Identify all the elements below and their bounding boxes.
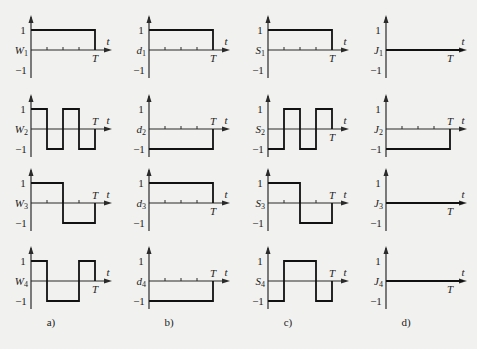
series-label: W1 (15, 44, 28, 58)
plus-one-label: 1 (138, 255, 144, 267)
y-axis-arrow-icon (266, 246, 271, 254)
plus-one-label: 1 (20, 255, 26, 267)
y-axis-arrow-icon (384, 168, 389, 176)
plot-J4: J4 (374, 246, 467, 309)
period-label: T (329, 52, 336, 64)
y-axis-arrow-icon (147, 168, 152, 176)
plus-one-label: 1 (138, 177, 144, 189)
x-axis-arrow-icon (459, 127, 467, 132)
minus-one-label: −1 (133, 64, 145, 76)
series-label: d4 (137, 275, 147, 289)
period-label: T (92, 52, 99, 64)
minus-one-label: −1 (370, 295, 382, 307)
plot-S1: S1 (256, 15, 350, 78)
minus-one-label: −1 (133, 217, 145, 229)
time-axis-label: t (106, 266, 110, 278)
y-axis-arrow-icon (266, 15, 271, 23)
plot-W4: W4 (15, 246, 112, 309)
plus-one-label: 1 (257, 177, 263, 189)
plot-W1: W1 (15, 15, 112, 78)
x-axis-arrow-icon (222, 48, 230, 53)
minus-one-label: −1 (133, 295, 145, 307)
period-label: T (329, 267, 336, 279)
series-label: S3 (256, 197, 266, 211)
x-axis-arrow-icon (104, 201, 112, 206)
series-label: d1 (137, 44, 147, 58)
series-label: W3 (15, 197, 28, 211)
waveform (149, 281, 213, 301)
plus-one-label: 1 (257, 103, 263, 115)
plus-one-label: 1 (375, 103, 381, 115)
period-label: T (447, 115, 454, 127)
minus-one-label: −1 (15, 143, 27, 155)
caption-b: b) (164, 316, 174, 329)
plus-one-label: 1 (375, 177, 381, 189)
series-label: S1 (256, 44, 266, 58)
x-axis-arrow-icon (341, 201, 349, 206)
series-label: S2 (256, 123, 266, 137)
waveform-figure: W1W2W3W41−1tT1−1tT1−1tT1−1tTa)d1d2d3d41−… (0, 0, 477, 349)
time-axis-label: t (224, 266, 228, 278)
minus-one-label: −1 (133, 143, 145, 155)
series-label: W4 (15, 275, 28, 289)
caption-c: c) (284, 316, 293, 329)
y-axis-arrow-icon (266, 168, 271, 176)
plus-one-label: 1 (138, 24, 144, 36)
time-axis-label: t (224, 188, 228, 200)
x-axis-arrow-icon (222, 279, 230, 284)
time-axis-label: t (106, 35, 110, 47)
minus-one-label: −1 (252, 295, 264, 307)
time-axis-label: t (106, 188, 110, 200)
x-axis-arrow-icon (341, 279, 349, 284)
plus-one-label: 1 (20, 177, 26, 189)
time-axis-label: t (461, 266, 465, 278)
time-axis-label: t (224, 114, 228, 126)
period-label: T (210, 267, 217, 279)
minus-one-label: −1 (370, 64, 382, 76)
period-label: T (447, 205, 454, 217)
time-axis-label: t (461, 35, 465, 47)
period-label: T (92, 189, 99, 201)
series-label: W2 (15, 123, 28, 137)
series-label: J2 (374, 123, 383, 137)
x-axis-arrow-icon (104, 48, 112, 53)
x-axis-arrow-icon (341, 127, 349, 132)
time-axis-label: t (343, 35, 347, 47)
minus-one-label: −1 (370, 143, 382, 155)
time-axis-label: t (461, 188, 465, 200)
series-label: J4 (374, 275, 383, 289)
period-label: T (447, 52, 454, 64)
caption-d: d) (401, 316, 411, 329)
time-axis-label: t (343, 266, 347, 278)
time-axis-label: t (343, 188, 347, 200)
plot-d3: d3 (137, 168, 231, 231)
time-axis-label: t (343, 114, 347, 126)
time-axis-label: t (461, 114, 465, 126)
period-label: T (329, 131, 336, 143)
x-axis-arrow-icon (222, 201, 230, 206)
series-label: J1 (374, 44, 383, 58)
panel-d: J1J2J3J4 (374, 15, 467, 309)
series-label: d3 (137, 197, 147, 211)
y-axis-arrow-icon (29, 168, 34, 176)
period-label: T (447, 283, 454, 295)
plus-one-label: 1 (375, 24, 381, 36)
minus-one-label: −1 (15, 64, 27, 76)
minus-one-label: −1 (252, 217, 264, 229)
y-axis-arrow-icon (29, 246, 34, 254)
plot-S2: S2 (256, 94, 350, 157)
x-axis-arrow-icon (341, 48, 349, 53)
period-label: T (92, 115, 99, 127)
series-label: S4 (256, 275, 266, 289)
y-axis-arrow-icon (29, 15, 34, 23)
y-axis-arrow-icon (29, 94, 34, 102)
period-label: T (210, 205, 217, 217)
plot-d1: d1 (137, 15, 231, 78)
x-axis-arrow-icon (104, 127, 112, 132)
period-label: T (329, 189, 336, 201)
plus-one-label: 1 (257, 255, 263, 267)
period-label: T (210, 52, 217, 64)
plus-one-label: 1 (375, 255, 381, 267)
minus-one-label: −1 (370, 217, 382, 229)
minus-one-label: −1 (252, 64, 264, 76)
